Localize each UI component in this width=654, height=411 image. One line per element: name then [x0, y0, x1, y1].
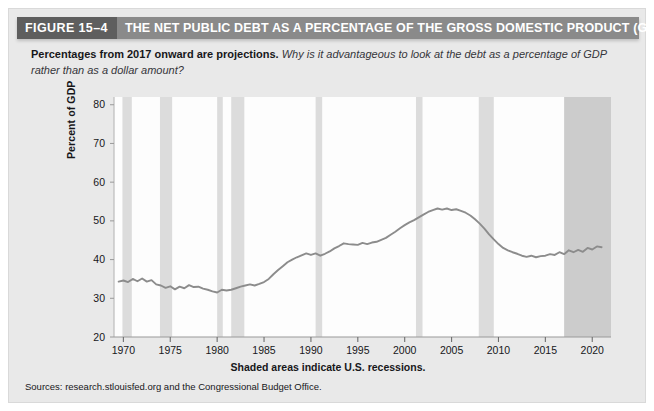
- y-tick-label: 60: [93, 176, 105, 188]
- figure-caption: Percentages from 2017 onward are project…: [31, 47, 627, 78]
- recession-band: [231, 97, 244, 337]
- figure-card: FIGURE 15–4 THE NET PUBLIC DEBT AS A PER…: [8, 8, 646, 403]
- figure-number-label: FIGURE 15–4: [17, 17, 117, 39]
- y-tick-label: 30: [93, 292, 105, 304]
- x-tick-label: 2000: [393, 344, 417, 356]
- y-tick-label: 70: [93, 137, 105, 149]
- x-tick-label: 1995: [346, 344, 370, 356]
- line-chart-svg: 2030405060708019701975198019851990199520…: [31, 89, 631, 379]
- recession-band: [217, 97, 223, 337]
- x-tick-label: 1980: [205, 344, 229, 356]
- chart-plot-area: 2030405060708019701975198019851990199520…: [31, 89, 631, 379]
- x-tick-label: 1970: [112, 344, 136, 356]
- recession-note: Shaded areas indicate U.S. recessions.: [9, 361, 647, 373]
- x-tick-label: 2020: [581, 344, 605, 356]
- x-tick-label: 1985: [252, 344, 276, 356]
- y-tick-label: 40: [93, 253, 105, 265]
- y-tick-label: 20: [93, 331, 105, 343]
- recession-band: [160, 97, 172, 337]
- plot-background: [114, 97, 611, 337]
- recession-band: [479, 97, 494, 337]
- caption-bold-text: Percentages from 2017 onward are project…: [31, 48, 279, 60]
- x-tick-label: 2005: [440, 344, 464, 356]
- x-tick-label: 1975: [159, 344, 183, 356]
- recession-band: [316, 97, 323, 337]
- x-tick-label: 2015: [534, 344, 558, 356]
- recession-band: [122, 97, 131, 337]
- projection-band: [564, 97, 611, 337]
- figure-title: THE NET PUBLIC DEBT AS A PERCENTAGE OF T…: [117, 17, 654, 39]
- y-tick-label: 80: [93, 98, 105, 110]
- y-tick-label: 50: [93, 214, 105, 226]
- figure-header-bar: FIGURE 15–4 THE NET PUBLIC DEBT AS A PER…: [17, 17, 639, 39]
- x-tick-label: 1990: [299, 344, 323, 356]
- sources-text: Sources: research.stlouisfed.org and the…: [25, 381, 322, 392]
- x-tick-label: 2010: [487, 344, 511, 356]
